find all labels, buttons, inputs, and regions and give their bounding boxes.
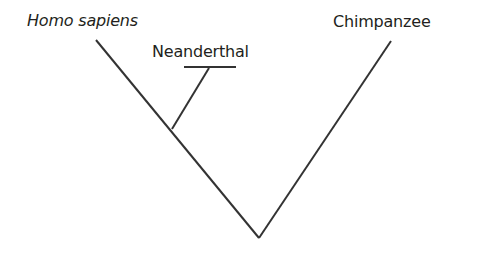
chimpanzee-branch <box>259 41 391 238</box>
phylogenetic-tree-diagram: Homo sapiens Neanderthal Chimpanzee <box>0 0 482 255</box>
taxon-label-chimpanzee: Chimpanzee <box>333 13 431 31</box>
taxon-label-neanderthal: Neanderthal <box>152 43 249 61</box>
neanderthal-branch <box>172 68 209 129</box>
homo-sapiens-branch <box>96 40 259 238</box>
tree-branches <box>0 0 482 255</box>
taxon-label-homo-sapiens: Homo sapiens <box>27 12 138 30</box>
